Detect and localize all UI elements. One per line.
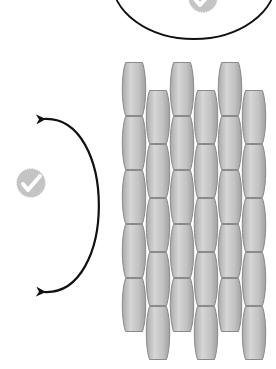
cell-column	[242, 91, 265, 360]
check-badge-icon	[16, 168, 46, 198]
cell	[218, 225, 241, 278]
cell	[146, 307, 169, 360]
cell	[170, 63, 193, 116]
top-ellipse	[112, 0, 276, 39]
cell	[242, 199, 265, 252]
cell	[170, 225, 193, 278]
cell	[194, 307, 217, 360]
cell	[218, 63, 241, 116]
cell-column	[122, 63, 145, 332]
cell-column	[194, 91, 217, 360]
cell	[146, 253, 169, 306]
cell	[194, 253, 217, 306]
cell	[146, 91, 169, 144]
cell	[146, 145, 169, 198]
cell-column	[170, 63, 193, 332]
cell	[122, 63, 145, 116]
cell	[170, 171, 193, 224]
cell	[194, 91, 217, 144]
cell	[170, 279, 193, 332]
cell	[242, 253, 265, 306]
cell-grid	[122, 63, 265, 360]
cell	[122, 171, 145, 224]
cell	[242, 307, 265, 360]
cell-column	[146, 91, 169, 360]
check-badge-icon	[16, 168, 46, 198]
cell-column	[218, 63, 241, 332]
cell	[146, 199, 169, 252]
cell	[122, 279, 145, 332]
cell	[218, 279, 241, 332]
cell	[242, 145, 265, 198]
cell	[218, 171, 241, 224]
cell	[194, 199, 217, 252]
cell	[194, 145, 217, 198]
cell	[218, 117, 241, 170]
cell	[242, 91, 265, 144]
cell	[170, 117, 193, 170]
double-headed-curved-arrow-icon	[44, 119, 99, 292]
cell	[122, 225, 145, 278]
cell	[122, 117, 145, 170]
diagram-canvas	[0, 0, 276, 369]
